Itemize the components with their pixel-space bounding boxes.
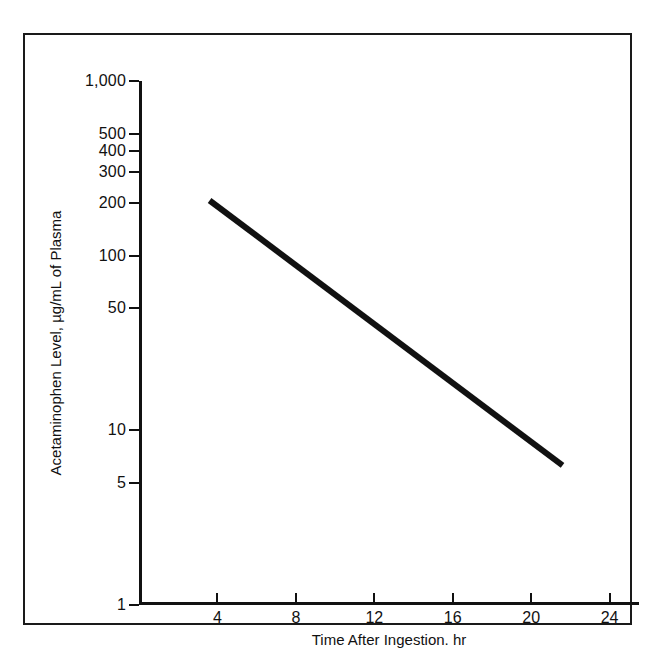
data-series-layer: [139, 81, 639, 605]
y-tick-mark: [129, 604, 139, 606]
y-tick-label: 1: [117, 597, 126, 613]
y-tick-label: 5: [117, 475, 126, 491]
x-tick-label: 24: [601, 610, 619, 626]
x-axis-title: Time After Ingestion. hr: [139, 631, 639, 648]
y-tick-label: 500: [99, 126, 126, 142]
plot-area: 1510501002003004005001,000 4812162024: [139, 81, 639, 605]
y-tick-label: 200: [99, 195, 126, 211]
y-tick-label: 400: [99, 143, 126, 159]
y-tick-label: 100: [99, 248, 126, 264]
y-tick-mark: [129, 171, 139, 173]
y-tick-mark: [129, 255, 139, 257]
y-tick-label: 10: [108, 422, 126, 438]
figure-frame: 1510501002003004005001,000 4812162024 Ac…: [23, 33, 632, 625]
y-tick-label: 300: [99, 164, 126, 180]
x-tick-label: 4: [213, 610, 222, 626]
treatment-line: [210, 200, 563, 465]
x-tick-label: 12: [365, 610, 383, 626]
y-tick-mark: [129, 133, 139, 135]
y-axis-title: Acetaminophen Level, µg/mL of Plasma: [47, 81, 69, 605]
y-tick-mark: [129, 482, 139, 484]
y-tick-mark: [129, 202, 139, 204]
x-tick-label: 8: [291, 610, 300, 626]
y-tick-label: 50: [108, 300, 126, 316]
y-tick-label: 1,000: [85, 73, 126, 89]
x-tick-label: 16: [444, 610, 462, 626]
y-tick-mark: [129, 429, 139, 431]
y-tick-mark: [129, 150, 139, 152]
x-tick-label: 20: [522, 610, 540, 626]
y-tick-mark: [129, 80, 139, 82]
y-tick-mark: [129, 307, 139, 309]
